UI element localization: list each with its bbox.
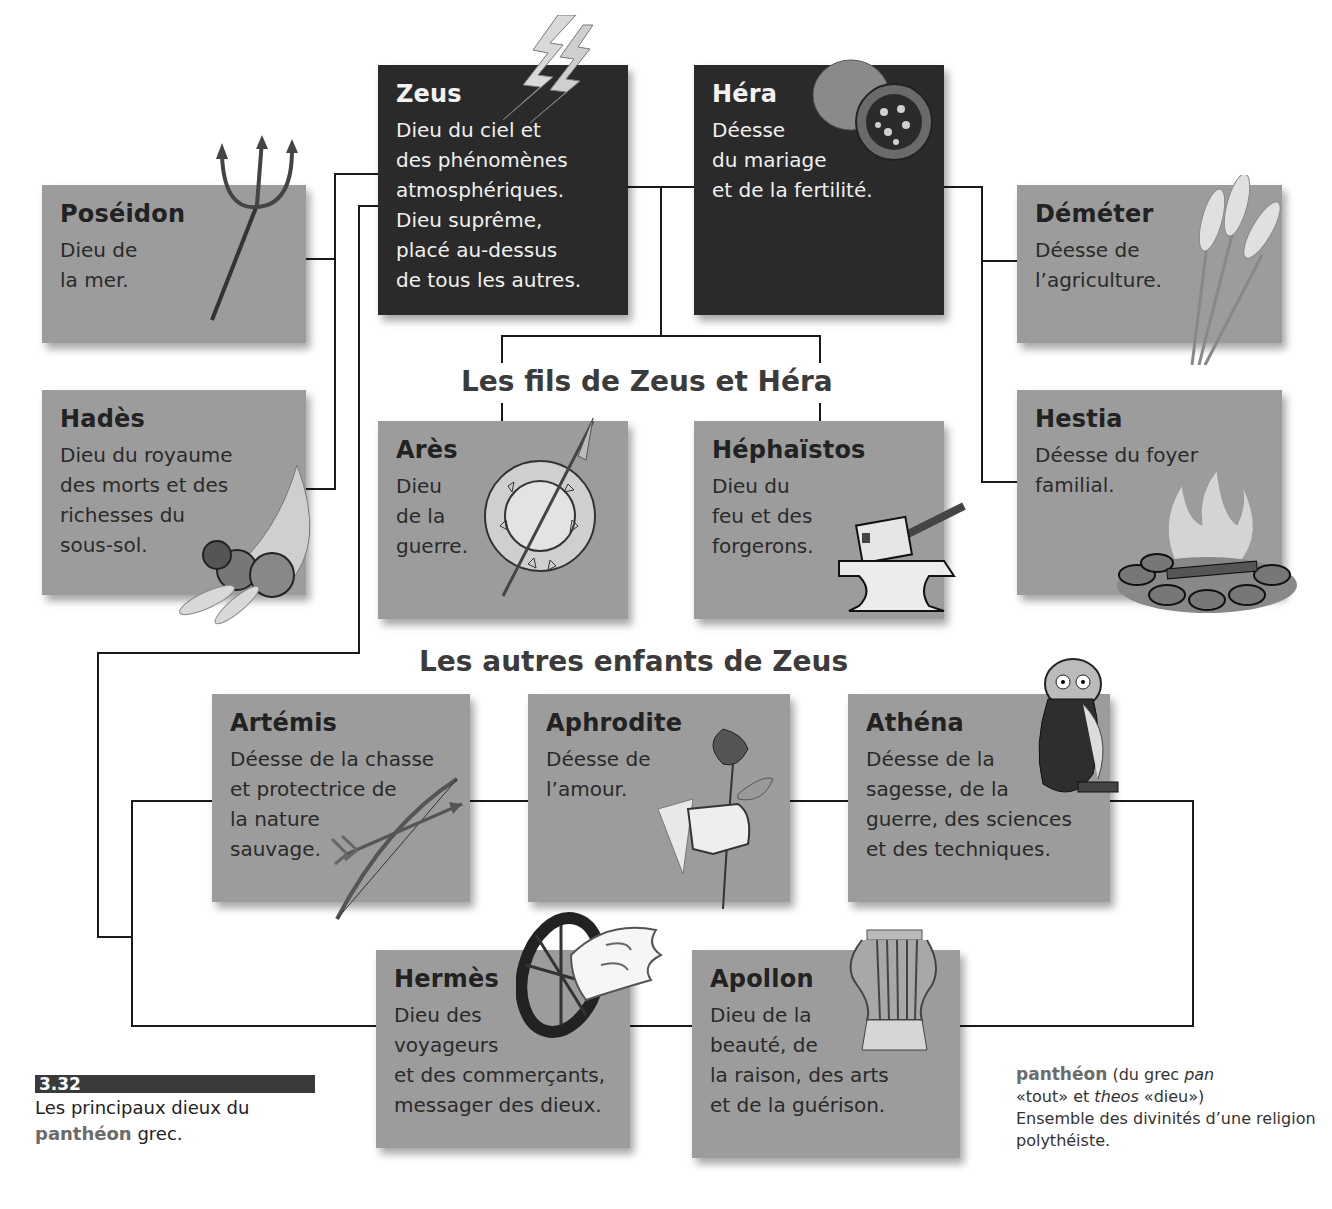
trident-icon (202, 135, 302, 325)
god-card-hermes: Hermès Dieu des voyageurs et des commerç… (376, 950, 630, 1148)
section-title-sons: Les fils de Zeus et Héra (461, 365, 833, 398)
god-card-hades: Hadès Dieu du royaume des morts et des r… (42, 390, 306, 595)
section-title-other-children: Les autres enfants de Zeus (419, 645, 848, 678)
glossary-term: panthéon (1016, 1064, 1107, 1084)
god-card-aphrodite: Aphrodite Déesse de l’amour. (528, 694, 790, 902)
connector (501, 335, 821, 337)
connector (306, 258, 336, 260)
god-card-poseidon: Poséidon Dieu de la mer. (42, 185, 306, 343)
connector (1192, 800, 1194, 1026)
connector (358, 205, 360, 653)
glossary-etymology: (du grec (1112, 1065, 1179, 1084)
shield-spear-icon (478, 416, 608, 606)
god-card-hestia: Hestia Déesse du foyer familial. (1017, 390, 1282, 595)
god-description: Dieu du ciel et des phénomènes atmosphér… (396, 115, 610, 295)
connector (981, 186, 983, 482)
connector (660, 186, 662, 336)
owl-icon (1023, 654, 1123, 814)
rose-hand-icon (653, 724, 793, 914)
connector (358, 205, 378, 207)
connector (131, 800, 133, 1026)
god-card-athena: Athéna Déesse de la sagesse, de la guerr… (848, 694, 1110, 902)
god-name: Artémis (230, 708, 452, 738)
caption-keyword: panthéon (35, 1123, 132, 1144)
god-card-demeter: Déméter Déesse de l’agriculture. (1017, 185, 1282, 343)
lyre-icon (842, 925, 942, 1065)
pomegranate-icon (806, 57, 936, 167)
figure-number: 3.32 (35, 1075, 315, 1093)
connector (819, 403, 821, 421)
connector (944, 186, 982, 188)
caption-text-end: grec. (137, 1123, 182, 1144)
god-card-hera: Héra Déesse du mariage et de la fertilit… (694, 65, 944, 315)
connector (470, 800, 530, 802)
connector (334, 173, 378, 175)
god-name: Hadès (60, 404, 288, 434)
glossary-greek-pan: pan (1184, 1065, 1214, 1084)
connector (131, 1025, 376, 1027)
connector (334, 173, 336, 490)
connector (131, 800, 213, 802)
connector (97, 936, 132, 938)
figure-caption: 3.32 Les principaux dieux du panthéon gr… (35, 1075, 315, 1147)
god-name: Héphaïstos (712, 435, 926, 465)
god-card-ares: Arès Dieu de la guerre. (378, 421, 628, 619)
connector (97, 652, 99, 937)
glossary-definition-text: Ensemble des divinités d’une religion po… (1016, 1109, 1316, 1150)
god-card-apollon: Apollon Dieu de la beauté, de la raison,… (692, 950, 960, 1158)
hearth-fire-icon (1097, 465, 1297, 615)
connector (501, 335, 503, 363)
connector (981, 481, 1017, 483)
glossary-greek-theos: theos (1094, 1087, 1138, 1106)
god-card-artemis: Artémis Déesse de la chasse et protectri… (212, 694, 470, 902)
connector (819, 335, 821, 363)
lightning-bolt-icon (498, 15, 593, 125)
god-card-hephaistos: Héphaïstos Dieu du feu et des forgerons. (694, 421, 944, 619)
caption-text-start: Les principaux dieux du (35, 1097, 249, 1118)
connector (960, 1025, 1194, 1027)
god-name: Hestia (1035, 404, 1264, 434)
caption-text: Les principaux dieux du panthéon grec. (35, 1095, 315, 1147)
connector (981, 260, 1017, 262)
glossary-pan-meaning: «tout» et (1016, 1087, 1089, 1106)
cornucopia-icon (177, 465, 327, 625)
glossary-theos-meaning: «dieu») (1144, 1087, 1204, 1106)
connector (97, 652, 360, 654)
bow-arrow-icon (327, 774, 467, 924)
winged-wheel-icon (516, 910, 666, 1040)
glossary-definition: panthéon (du grec pan «tout» et theos «d… (1016, 1063, 1316, 1152)
anvil-hammer-icon (834, 491, 974, 621)
connector (790, 800, 850, 802)
god-card-zeus: Zeus Dieu du ciel et des phénomènes atmo… (378, 65, 628, 315)
wheat-icon (1177, 175, 1287, 375)
